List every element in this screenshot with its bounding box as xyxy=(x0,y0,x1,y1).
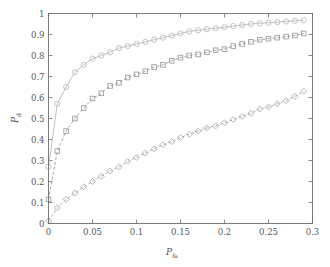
x-tick-label: 0.05 xyxy=(83,227,102,237)
x-tick-label: 0.15 xyxy=(171,227,190,237)
chart-figure: 00.050.10.150.20.250.3 00.10.20.30.40.50… xyxy=(0,0,330,267)
x-tick-label: 0.2 xyxy=(218,227,232,237)
y-tick-label: 1 xyxy=(39,9,44,19)
y-tick-label: 0.2 xyxy=(31,177,45,187)
x-tick-label: 0.1 xyxy=(130,227,144,237)
x-tick-label: 0 xyxy=(46,227,51,237)
x-axis-title-subscript: fa xyxy=(172,252,178,259)
y-tick-label: 0.1 xyxy=(31,198,45,208)
y-tick-label: 0.9 xyxy=(31,30,45,40)
y-tick-label: 0.5 xyxy=(31,114,45,124)
x-tick-label: 0.25 xyxy=(259,227,278,237)
y-tick-label: 0.3 xyxy=(31,156,45,166)
x-tick-label: 0.3 xyxy=(306,227,320,237)
y-tick-label: 0.4 xyxy=(31,135,45,145)
y-tick-label: 0.7 xyxy=(31,72,45,82)
y-tick-label: 0.6 xyxy=(31,93,45,103)
y-tick-label: 0.8 xyxy=(31,51,45,61)
roc-plot: 00.050.10.150.20.250.3 00.10.20.30.40.50… xyxy=(0,0,330,267)
y-tick-label: 0 xyxy=(39,219,44,229)
y-axis-title-subscript: d xyxy=(15,113,22,117)
